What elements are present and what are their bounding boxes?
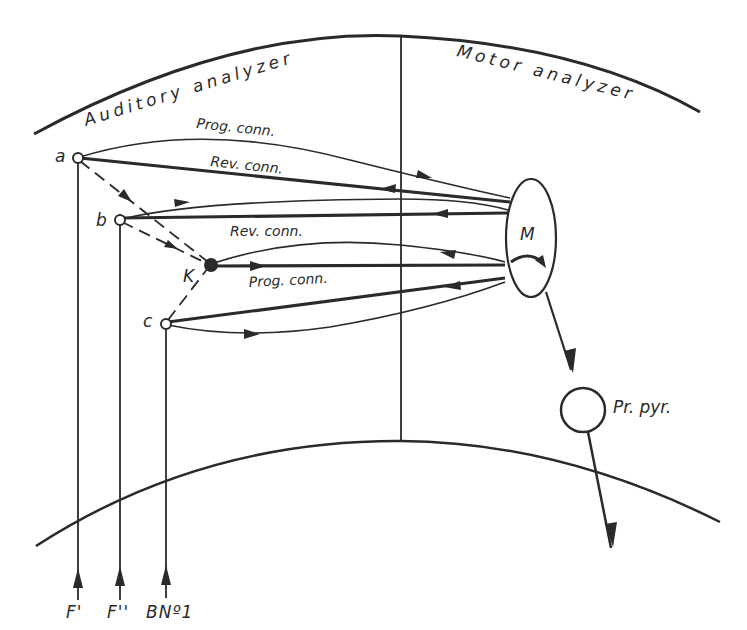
reflex-arc-diagram: Auditory analyzer Motor analyzer F' F'' … <box>0 0 747 630</box>
arrow-icon <box>416 170 432 178</box>
motor-center-label: M <box>520 224 535 244</box>
arrow-up-icon <box>161 565 171 585</box>
arrow-up-icon <box>73 568 83 588</box>
input-label-bn1: BNº1 <box>146 602 193 622</box>
node-c <box>161 319 171 329</box>
input-label-f1: F' <box>66 602 82 622</box>
prog-conn-c-m <box>168 282 505 333</box>
arrow-icon <box>380 184 396 193</box>
arrow-icon <box>440 250 456 259</box>
rev-conn-m-b <box>122 213 508 218</box>
lower-cortex-boundary <box>36 441 720 546</box>
arrow-icon <box>174 199 190 207</box>
input-label-f2: F'' <box>107 602 129 622</box>
node-a-label: a <box>55 146 65 166</box>
prog-conn-label-top: Prog. conn. <box>196 115 276 139</box>
node-b-label: b <box>96 210 107 230</box>
prog-conn-a-m <box>80 139 510 198</box>
node-c-label: c <box>143 311 153 331</box>
rev-conn-label-mid: Rev. conn. <box>230 223 303 239</box>
node-k <box>204 258 218 272</box>
pyramidal-cell-label: Pr. pyr. <box>613 397 671 417</box>
arrow-icon <box>164 240 178 249</box>
node-b <box>115 215 125 225</box>
node-k-label: K <box>183 266 196 286</box>
arrow-icon <box>250 261 266 271</box>
arrow-up-icon <box>115 566 125 586</box>
prog-conn-label-mid: Prog. conn. <box>248 270 328 290</box>
pyramidal-cell <box>561 388 605 432</box>
rev-conn-m-k <box>214 242 505 263</box>
arrow-icon <box>432 209 448 218</box>
arrow-icon <box>118 189 132 202</box>
dashed-link-b-k <box>122 222 206 263</box>
auditory-analyzer-label: Auditory analyzer <box>80 47 295 130</box>
arrow-icon <box>244 329 260 339</box>
node-a <box>73 153 83 163</box>
rev-conn-m-a <box>80 158 510 202</box>
